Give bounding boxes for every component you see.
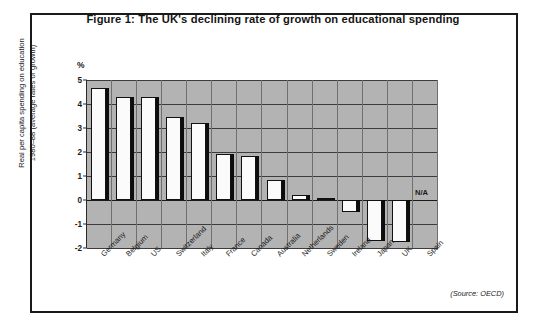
page-title: Figure 1: The UK's declining rate of gro… xyxy=(0,13,546,25)
bar-belgium[interactable] xyxy=(116,97,131,200)
y-tick-label: 0 xyxy=(77,196,82,205)
y-tick-label: 3 xyxy=(77,124,82,133)
y-tick-label: 1 xyxy=(77,172,82,181)
bar-slot[interactable] xyxy=(413,80,438,248)
bar-france[interactable] xyxy=(216,154,231,200)
bar-netherlands[interactable] xyxy=(292,195,307,200)
bar-germany[interactable] xyxy=(91,88,106,200)
y-axis-title-line-1: Real per capita spending on education xyxy=(17,13,28,193)
bar-slot[interactable] xyxy=(313,80,338,248)
y-tick-label: -1 xyxy=(75,220,82,229)
bar-sweden[interactable] xyxy=(317,198,332,200)
y-tick-label: 4 xyxy=(77,100,82,109)
bar-slot[interactable] xyxy=(263,80,288,248)
y-axis-unit-label: % xyxy=(77,60,85,70)
bar-switzerland[interactable] xyxy=(166,117,181,200)
y-tick-label: 5 xyxy=(77,76,82,85)
x-axis-labels: GermanyBelgiumUSSwitzerlandItalyFranceCa… xyxy=(86,248,437,308)
bar-italy[interactable] xyxy=(191,123,206,200)
bar-us[interactable] xyxy=(141,97,156,200)
bar-canada[interactable] xyxy=(241,156,256,200)
bar-slot[interactable] xyxy=(338,80,363,248)
bar-japan[interactable] xyxy=(367,200,382,241)
bar-uk[interactable] xyxy=(392,200,407,242)
bar-slot[interactable] xyxy=(288,80,313,248)
bar-ireland[interactable] xyxy=(342,200,357,212)
plot-area: 543210-1-2N/A xyxy=(86,80,438,248)
y-tick-label: 2 xyxy=(77,148,82,157)
source-note: (Source: OECD) xyxy=(450,289,504,298)
y-tick-label: -2 xyxy=(75,244,82,253)
na-annotation: N/A xyxy=(415,188,428,197)
bar-australia[interactable] xyxy=(267,180,282,200)
